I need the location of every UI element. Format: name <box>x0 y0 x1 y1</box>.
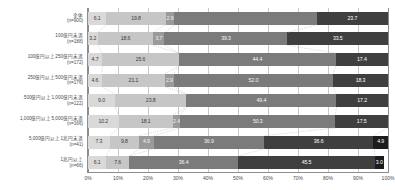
segment-value-label: 3.2 <box>89 36 96 41</box>
segment-value-label: 52.0 <box>249 78 259 83</box>
segment-value-label: 6.1 <box>94 16 101 21</box>
bar-segment: 23.7 <box>317 12 388 25</box>
segment-value-label: 39.3 <box>221 36 231 41</box>
bar-segment: 50.3 <box>180 115 335 128</box>
segment-value-label: 18.1 <box>141 119 151 124</box>
segment-value-label: 9.0 <box>98 98 105 103</box>
segment-value-label: 4.7 <box>92 57 99 62</box>
bar-row: 4.725.644.417.4 <box>88 53 388 66</box>
segment-value-label: 36.6 <box>314 139 324 144</box>
bar-segment: 44.4 <box>179 53 336 66</box>
segment-value-label: 19.8 <box>131 16 141 21</box>
segment-value-label: 2.9 <box>167 16 174 21</box>
bar-segment: 2.4 <box>173 115 180 128</box>
y-axis-label: 500億円以上1,000億円未満(n=122) <box>24 95 83 106</box>
bar-segment: 4.9 <box>373 136 388 149</box>
segment-value-label: 18.3 <box>356 78 366 83</box>
category-sample-size: (n=900) <box>67 18 83 24</box>
bar-segment: 2.9 <box>165 74 174 87</box>
bar-segment: 4.7 <box>88 53 102 66</box>
bar-row: 3.218.63.739.333.5 <box>88 32 388 45</box>
y-axis-line <box>87 8 88 173</box>
bar-row: 9.023.849.417.2 <box>88 94 388 107</box>
segment-value-label: 17.2 <box>357 98 367 103</box>
category-sample-size: (n=122) <box>24 101 83 107</box>
bar-row: 6.17.636.445.53.0 <box>88 156 388 169</box>
gridline-100 <box>388 8 389 173</box>
bar-segment: 6.1 <box>88 12 106 25</box>
bar-segment: 2.9 <box>166 12 175 25</box>
bar-segment: 9.8 <box>110 136 139 149</box>
bar-row: 4.621.12.952.018.3 <box>88 74 388 87</box>
segment-value-label: 3.0 <box>376 160 383 165</box>
x-axis-tick: 80% <box>323 175 333 181</box>
segment-value-label: 23.8 <box>146 98 156 103</box>
segment-value-label: 36.9 <box>204 139 214 144</box>
x-axis-tick: 40% <box>203 175 213 181</box>
segment-value-label: 2.9 <box>166 78 173 83</box>
segment-value-label: 45.5 <box>302 160 312 165</box>
bar-segment: 49.4 <box>186 94 336 107</box>
segment-value-label: 2.4 <box>173 119 180 124</box>
bar-segment: 23.8 <box>115 94 186 107</box>
segment-value-label: 49.4 <box>257 98 267 103</box>
segment-value-label: 36.4 <box>179 160 189 165</box>
bar-row: 6.119.82.923.7 <box>88 12 388 25</box>
bar-segment: 19.8 <box>106 12 165 25</box>
bar-segment <box>174 12 317 25</box>
x-axis-tick: 50% <box>233 175 243 181</box>
bar-segment: 17.5 <box>335 115 388 128</box>
bar-segment: 9.0 <box>88 94 115 107</box>
category-sample-size: (n=66) <box>60 163 83 169</box>
category-sample-size: (n=172) <box>28 60 83 66</box>
stacked-bar-chart: 全体(n=900)100億円未満(n=188)100億円以上250億円未満(n=… <box>0 0 395 190</box>
x-axis-tick: 90% <box>353 175 363 181</box>
segment-value-label: 17.5 <box>357 119 367 124</box>
segment-value-label: 44.4 <box>252 57 262 62</box>
segment-value-label: 7.3 <box>95 139 102 144</box>
segment-value-label: 23.7 <box>348 16 358 21</box>
y-axis-label: 5,000億円以上1兆円未満(n=41) <box>29 136 83 147</box>
category-sample-size: (n=176) <box>28 80 83 86</box>
bar-segment: 33.5 <box>287 32 388 45</box>
bar-segment: 4.6 <box>88 74 102 87</box>
segment-value-label: 4.9 <box>143 139 150 144</box>
bar-row: 7.39.84.936.936.64.9 <box>88 136 388 149</box>
bar-row: 10.218.12.450.317.5 <box>88 115 388 128</box>
bar-segment: 7.6 <box>106 156 129 169</box>
segment-value-label: 21.1 <box>129 78 139 83</box>
x-axis-line <box>88 172 388 173</box>
x-axis-tick-labels: 0%10%20%30%40%50%60%70%80%90%100% <box>88 175 388 187</box>
segment-value-label: 25.6 <box>136 57 146 62</box>
segment-value-label: 6.1 <box>94 160 101 165</box>
segment-value-label: 10.2 <box>98 119 108 124</box>
category-sample-size: (n=166) <box>20 121 83 127</box>
category-sample-size: (n=188) <box>55 39 83 45</box>
y-axis-label: 250億円以上500億円未満(n=176) <box>28 75 83 86</box>
segment-value-label: 18.6 <box>121 36 131 41</box>
category-name: 100億円以上250億円未満 <box>28 54 83 60</box>
x-axis-tick: 0% <box>84 175 91 181</box>
bar-segment: 36.6 <box>264 136 373 149</box>
y-axis-label: 1,000億円以上5,000億円未満(n=166) <box>20 116 83 127</box>
segment-value-label: 17.4 <box>357 57 367 62</box>
bar-segment: 7.3 <box>88 136 110 149</box>
bar-rows: 6.119.82.923.73.218.63.739.333.54.725.64… <box>88 8 388 173</box>
bar-segment: 21.1 <box>102 74 165 87</box>
bar-segment: 3.2 <box>88 32 98 45</box>
segment-value-label: 7.6 <box>114 160 121 165</box>
segment-value-label: 50.3 <box>253 119 263 124</box>
bar-segment: 17.2 <box>336 94 388 107</box>
category-name: 500億円以上1,000億円未満 <box>24 95 83 101</box>
segment-value-label: 4.9 <box>377 139 384 144</box>
x-axis-tick: 60% <box>263 175 273 181</box>
y-axis-label: 100億円未満(n=188) <box>55 33 83 44</box>
bar-segment: 10.2 <box>88 115 119 128</box>
bar-segment: 18.1 <box>119 115 173 128</box>
x-axis-tick: 30% <box>173 175 183 181</box>
bar-segment: 3.7 <box>153 32 164 45</box>
bar-segment: 3.0 <box>375 156 384 169</box>
bar-segment: 4.9 <box>139 136 154 149</box>
segment-value-label: 4.6 <box>91 78 98 83</box>
bar-segment: 36.4 <box>129 156 238 169</box>
